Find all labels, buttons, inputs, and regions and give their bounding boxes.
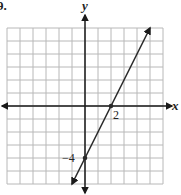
x-intercept-label: 2: [113, 108, 119, 123]
x-axis-label: x: [172, 98, 179, 114]
y-intercept-label: −4: [62, 151, 75, 166]
y-axis-label: y: [82, 0, 88, 14]
problem-number: 9.: [0, 0, 7, 14]
axes: [2, 15, 172, 193]
coordinate-plane: [0, 0, 181, 195]
